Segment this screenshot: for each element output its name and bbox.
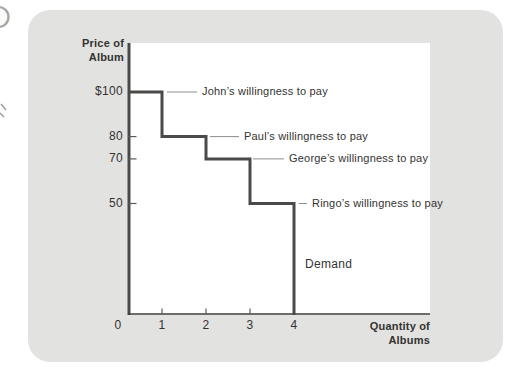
y-tick-label-50: 50 bbox=[76, 196, 123, 210]
x-tick-label-0: 0 bbox=[106, 318, 130, 332]
y-axis-title-line1: Price of bbox=[38, 37, 124, 51]
page-edge-text-artifact bbox=[0, 104, 6, 117]
y-tick-label-100: $100 bbox=[76, 84, 123, 98]
plot-area bbox=[128, 43, 430, 315]
x-axis-title-line2: Albums bbox=[328, 334, 430, 348]
x-axis-title: Quantity of Albums bbox=[328, 320, 430, 347]
page-edge-figure-number-circle-artifact bbox=[0, 7, 9, 27]
x-tick-label-1: 1 bbox=[150, 318, 174, 332]
y-axis-title-line2: Album bbox=[38, 51, 124, 65]
x-tick-label-2: 2 bbox=[194, 318, 218, 332]
x-tick-label-4: 4 bbox=[282, 318, 306, 332]
x-tick-label-3: 3 bbox=[238, 318, 262, 332]
y-axis-title: Price of Album bbox=[38, 37, 124, 64]
y-tick-label-80: 80 bbox=[76, 129, 123, 143]
annotation-paul-willingness-to-pay: Paul’s willingness to pay bbox=[244, 130, 368, 142]
x-axis-title-line1: Quantity of bbox=[328, 320, 430, 334]
annotation-ringo-willingness-to-pay: Ringo’s willingness to pay bbox=[312, 197, 443, 209]
annotation-john-willingness-to-pay: John’s willingness to pay bbox=[202, 85, 328, 97]
annotation-george-willingness-to-pay: George’s willingness to pay bbox=[289, 152, 428, 164]
y-tick-label-70: 70 bbox=[76, 151, 123, 165]
demand-label: Demand bbox=[305, 257, 352, 271]
